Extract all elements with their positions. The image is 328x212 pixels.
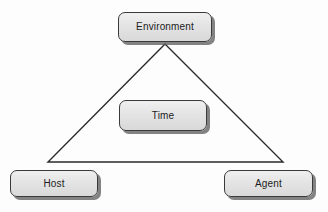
- diagram-canvas: Environment Time Host Agent: [0, 0, 328, 212]
- node-time[interactable]: Time: [119, 100, 207, 131]
- node-environment-label: Environment: [136, 22, 194, 32]
- node-host[interactable]: Host: [10, 170, 98, 197]
- node-environment[interactable]: Environment: [118, 12, 212, 42]
- node-agent-label: Agent: [255, 179, 282, 189]
- node-agent[interactable]: Agent: [224, 170, 313, 197]
- node-time-label: Time: [152, 111, 174, 121]
- node-host-label: Host: [43, 179, 64, 189]
